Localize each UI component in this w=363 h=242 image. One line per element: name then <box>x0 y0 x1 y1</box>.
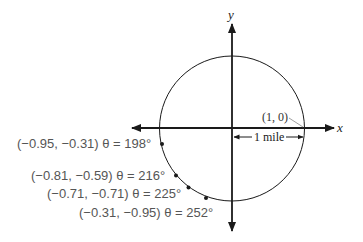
radius-label: 1 mile <box>254 130 284 144</box>
point-label-216: (−0.81, −0.59) θ = 216° <box>31 168 165 183</box>
unit-circle-diagram: x y (1, 0) 1 mile (−0.95, −0.31) θ = 198… <box>0 0 363 242</box>
point-252 <box>204 196 208 200</box>
point-225 <box>187 186 191 190</box>
point-label-252: (−0.31, −0.95) θ = 252° <box>79 205 213 220</box>
point-label-225: (−0.71, −0.71) θ = 225° <box>47 186 181 201</box>
x-axis-label: x <box>336 120 343 135</box>
y-axis-label: y <box>226 7 234 22</box>
point-198 <box>160 142 164 146</box>
point-1-0-label: (1, 0) <box>262 110 288 124</box>
point-label-198: (−0.95, −0.31) θ = 198° <box>17 136 151 151</box>
point-216 <box>174 174 178 178</box>
leader-line <box>289 118 303 127</box>
